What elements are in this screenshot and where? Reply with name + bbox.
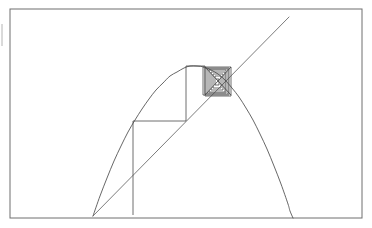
cobweb-staircase-path [133, 66, 231, 215]
map-curve-group [93, 66, 293, 218]
map-curve-parabola [93, 66, 293, 218]
identity-line-diagonal [93, 17, 289, 216]
cobweb-group [133, 66, 231, 215]
cobweb-diagram-canvas [0, 0, 372, 228]
identity-line-group [93, 17, 289, 216]
figure-root [0, 0, 372, 228]
